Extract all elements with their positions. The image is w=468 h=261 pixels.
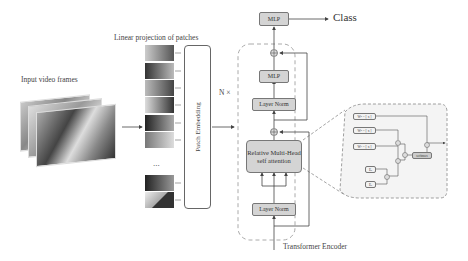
class-label: Class bbox=[333, 11, 357, 23]
patch bbox=[145, 132, 174, 148]
patch bbox=[145, 45, 174, 61]
patch bbox=[145, 80, 174, 96]
patch bbox=[145, 192, 174, 208]
softmax-box: softmax bbox=[412, 152, 432, 159]
layer-norm-bottom: Layer Norm bbox=[252, 203, 296, 216]
linear-projection-label: Linear projection of patches bbox=[114, 33, 198, 42]
patch bbox=[145, 115, 174, 131]
patch-embedding-block: Patch Embedding bbox=[184, 45, 211, 209]
repeat-label: N × bbox=[219, 88, 231, 97]
weight-box-1: W² = [ x ] bbox=[353, 113, 376, 120]
relative-attention-block: Relative Multi-Head self attention bbox=[246, 140, 302, 173]
patch-embedding-label: Patch Embedding bbox=[194, 102, 202, 152]
mlp-head: MLP bbox=[259, 12, 289, 26]
weight-box-3: W³ = [ x ] bbox=[353, 143, 376, 150]
patch bbox=[145, 63, 174, 79]
ellipsis: ... bbox=[153, 158, 160, 168]
patch bbox=[145, 175, 174, 191]
mlp-block: MLP bbox=[259, 70, 289, 83]
transformer-encoder-label: Transformer Encoder bbox=[283, 242, 347, 251]
patch bbox=[145, 97, 174, 113]
weight-box-2: W² = [ x ] bbox=[353, 127, 376, 134]
relative-embedding-1: Eₐ bbox=[365, 166, 376, 173]
input-frames-label: Input video frames bbox=[21, 75, 78, 84]
layer-norm-top: Layer Norm bbox=[252, 98, 296, 111]
relative-embedding-2: Eₐ bbox=[365, 181, 376, 188]
